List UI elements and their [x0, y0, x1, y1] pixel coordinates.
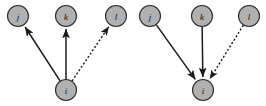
edge-j-to-i	[156, 25, 195, 79]
graph-node-j[interactable]: j	[8, 6, 29, 27]
node-label-j: j	[16, 12, 20, 22]
graph-figure: jklijkli	[0, 0, 266, 106]
graph-node-k[interactable]: k	[56, 6, 77, 27]
graph-node-k[interactable]: k	[192, 6, 213, 27]
edge-i-to-j	[25, 27, 60, 81]
nodes-layer: jklijkli	[8, 6, 260, 101]
edge-k-to-i	[202, 27, 203, 77]
graph-node-l[interactable]: l	[106, 6, 127, 27]
edges-layer	[25, 25, 243, 81]
edge-l-to-i	[210, 25, 243, 79]
edge-i-to-l	[72, 27, 109, 81]
graph-canvas: jklijkli	[0, 0, 266, 106]
graph-node-i[interactable]: i	[56, 80, 77, 101]
graph-node-j[interactable]: j	[140, 6, 161, 27]
graph-node-i[interactable]: i	[193, 80, 214, 101]
graph-node-l[interactable]: l	[239, 6, 260, 27]
node-label-j: j	[148, 12, 152, 22]
